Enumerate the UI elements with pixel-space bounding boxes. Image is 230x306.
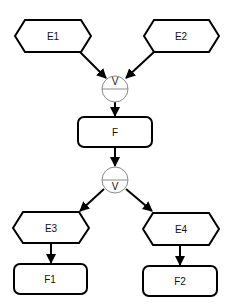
function-label: F1 [44, 274, 56, 285]
function-label: F2 [174, 276, 186, 287]
event-e1[interactable]: E1 [15, 20, 91, 52]
event-e3[interactable]: E3 [13, 212, 89, 243]
event-e4[interactable]: E4 [143, 213, 219, 245]
event-label: E4 [175, 224, 188, 235]
or-split-connector[interactable]: V [102, 167, 128, 193]
event-label: E2 [175, 31, 188, 42]
edge-split-e4 [126, 189, 152, 211]
edge-e2-join [126, 52, 154, 78]
event-e2[interactable]: E2 [144, 20, 219, 52]
edge-e1-join [80, 52, 106, 78]
edge-split-e3 [80, 189, 104, 211]
event-label: E1 [47, 31, 60, 42]
function-f[interactable]: F [78, 117, 152, 147]
connector-label: V [112, 181, 119, 192]
epc-diagram: E1 E2 V F V E3 E4 F1 F2 [0, 0, 230, 306]
or-join-connector[interactable]: V [102, 76, 128, 102]
function-label: F [112, 127, 118, 138]
function-f2[interactable]: F2 [143, 266, 217, 296]
connector-label: V [112, 76, 119, 87]
function-f1[interactable]: F1 [14, 264, 87, 294]
event-label: E3 [45, 223, 58, 234]
